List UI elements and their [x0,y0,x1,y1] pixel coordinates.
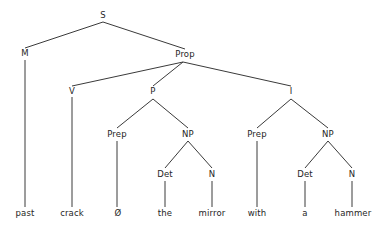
leaf-with: with [248,208,267,218]
edge-s-m [25,22,103,48]
node-n-right: N [349,169,356,179]
tree-node-group: S M Prop V P I Prep NP Prep NP Det N Det… [21,10,355,179]
syntax-tree-canvas: S M Prop V P I Prep NP Prep NP Det N Det… [0,0,388,230]
node-det-left: Det [157,169,173,179]
edge-prop-i [183,62,291,86]
node-det-right: Det [297,169,313,179]
node-m: M [21,48,28,58]
tree-leaf-group: past crack Ø the mirror with a hammer [16,208,372,218]
node-i: I [290,86,293,96]
node-prep-right: Prep [247,129,267,139]
node-s: S [100,10,106,20]
leaf-crack: crack [60,208,84,218]
edge-np-left-n [188,141,212,168]
leaf-zero: Ø [115,208,122,218]
edge-i-prep-right [257,99,291,128]
edge-np-right-n [328,141,352,168]
edge-i-np-right [291,99,328,128]
syntax-tree-figure: S M Prop V P I Prep NP Prep NP Det N Det… [0,0,388,230]
node-prep-left: Prep [107,129,127,139]
node-v: V [69,86,75,96]
leaf-mirror: mirror [199,208,226,218]
node-p: P [150,86,155,96]
node-np-left: NP [182,129,194,139]
leaf-a: a [302,208,307,218]
edge-prop-v [72,62,183,86]
leaf-past: past [16,208,35,218]
edge-s-prop [103,22,185,49]
leaf-hammer: hammer [335,208,372,218]
edge-np-left-det [165,141,188,168]
node-np-right: NP [322,129,334,139]
node-prop: Prop [175,49,194,59]
edge-p-np-left [153,99,188,128]
leaf-the: the [158,208,172,218]
edge-p-prep-left [117,99,153,128]
node-n-left: N [209,169,216,179]
edge-np-right-det [305,141,328,168]
